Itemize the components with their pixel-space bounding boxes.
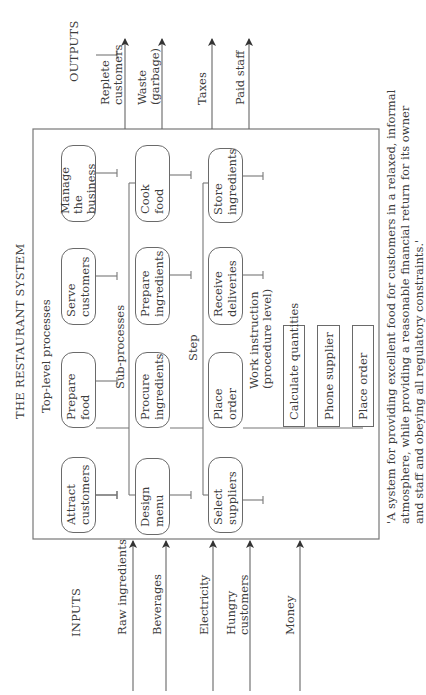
- node-prepare-food: Preparefood: [61, 352, 96, 428]
- level-label-top-level: Top-level processes: [40, 299, 53, 413]
- level-label-step: Step: [187, 334, 200, 361]
- caption-line2: atmosphere, while providing a reasonable…: [398, 90, 412, 524]
- output-label-replete-line2: customers: [112, 45, 125, 105]
- system-definition-caption: 'A system for providing excellent food f…: [384, 90, 426, 524]
- node-attract-customers: Attractcustomers: [61, 457, 96, 533]
- output-label-taxes: Taxes: [196, 72, 209, 105]
- node-serve-customers: Servecustomers: [61, 248, 96, 325]
- output-label-waste-line2: (garbage): [149, 48, 162, 105]
- input-label-raw-ingredients: Raw ingredients: [116, 539, 129, 635]
- work-instruction-line2: (procedure level): [261, 289, 274, 389]
- node-manage-business: Managethe business: [61, 145, 96, 222]
- node-procure-ingredients: Procureingredients: [135, 352, 170, 428]
- node-prepare-ingredients: Prepareingredients: [135, 247, 170, 325]
- output-label-replete-customers: Replete customers: [99, 45, 125, 105]
- input-label-hungry-line2: customers: [238, 575, 251, 635]
- level-label-sub-processes: Sub-processes: [114, 305, 127, 389]
- inputs-heading: INPUTS: [70, 588, 83, 637]
- node-cook-food: Cookfood: [135, 145, 170, 222]
- work-item-calculate-quantities: Calculate quantities: [283, 325, 305, 427]
- outputs-heading: OUTPUTS: [68, 20, 81, 82]
- input-label-beverages: Beverages: [151, 574, 164, 635]
- output-label-paid-staff: Paid staff: [234, 51, 247, 105]
- work-item-place-order: Place order: [352, 325, 374, 427]
- work-item-phone-supplier: Phone supplier: [317, 325, 340, 427]
- caption-line3: and staff and obeying all regulatory con…: [412, 90, 426, 524]
- diagram-title: THE RESTAURANT SYSTEM: [14, 243, 27, 419]
- node-place-order: Placeorder: [208, 352, 243, 428]
- input-label-hungry-customers: Hungry customers: [225, 575, 251, 635]
- caption-line1: 'A system for providing excellent food f…: [384, 90, 398, 524]
- input-label-money: Money: [284, 596, 297, 635]
- output-label-waste: Waste (garbage): [136, 48, 162, 105]
- top-level-stubs: [96, 51, 117, 499]
- input-label-electricity: Electricity: [198, 575, 211, 635]
- node-design-menu: Designmenu: [135, 458, 170, 535]
- node-select-suppliers: Selectsuppliers: [208, 457, 243, 533]
- level-label-work-instruction: Work instruction (procedure level): [248, 289, 274, 389]
- node-receive-deliveries: Receivedeliveries: [208, 247, 243, 325]
- node-store-ingredients: Storeingredients: [208, 148, 243, 223]
